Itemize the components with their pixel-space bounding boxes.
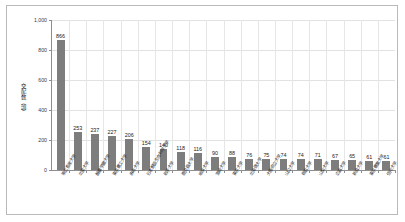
bar-value-label: 88 xyxy=(229,150,235,156)
bar-value-label: 253 xyxy=(73,125,82,131)
bar-value-label: 237 xyxy=(90,127,99,133)
bar-value-label: 67 xyxy=(332,153,338,159)
y-axis-tick-label: 400 xyxy=(38,107,47,113)
bar-value-label: 227 xyxy=(108,129,117,135)
bar xyxy=(108,136,116,170)
bar xyxy=(57,40,65,170)
y-axis-tick-mark xyxy=(49,80,52,81)
bar-value-label: 866 xyxy=(56,33,65,39)
y-axis-tick-mark xyxy=(49,110,52,111)
x-axis-tick-labels: 帯広畜産大学北里大学酪農学園大学東京農工大学麻布大学日本獣医生命科学大学岩手大学… xyxy=(51,172,394,216)
bar-value-label: 61 xyxy=(366,154,372,160)
bar-value-label: 206 xyxy=(125,132,134,138)
y-axis-tick-label: 1,000 xyxy=(34,17,47,23)
bar-value-label: 71 xyxy=(315,152,321,158)
bar xyxy=(91,134,99,170)
bar-value-label: 75 xyxy=(263,152,269,158)
bar-value-label: 76 xyxy=(246,152,252,158)
bars-layer: 8662532372272061541401181169088767574747… xyxy=(52,20,395,170)
bar-value-label: 116 xyxy=(193,146,202,152)
bar-value-label: 90 xyxy=(212,150,218,156)
y-axis-tick-label: 200 xyxy=(38,137,47,143)
y-axis-tick-label: 600 xyxy=(38,77,47,83)
plot-area: 8662532372272061541401181169088767574747… xyxy=(51,20,395,171)
y-axis-tick-mark xyxy=(49,50,52,51)
y-axis-tick-labels: 02004006008001,000 xyxy=(23,18,49,170)
y-axis-tick-mark xyxy=(49,140,52,141)
bar-value-label: 118 xyxy=(176,145,185,151)
bar xyxy=(74,132,82,170)
bar-value-label: 154 xyxy=(142,140,151,146)
bar-value-label: 65 xyxy=(349,153,355,159)
y-axis-tick-mark xyxy=(49,170,52,171)
chart-figure-frame: 交配数（頭） 02004006008001,000 86625323722720… xyxy=(6,5,398,215)
x-axis-tick-mark xyxy=(395,170,396,173)
y-axis-tick-mark xyxy=(49,20,52,21)
y-axis-tick-label: 0 xyxy=(44,167,47,173)
y-axis-tick-label: 800 xyxy=(38,47,47,53)
bar-value-label: 74 xyxy=(298,152,304,158)
